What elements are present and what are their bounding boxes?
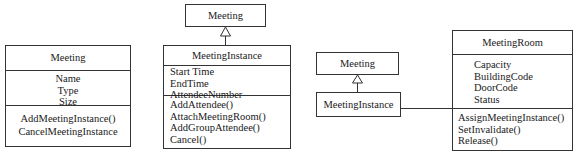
class-meeting-superclass-c: Meeting [316,52,399,75]
attribute: Status [474,94,572,106]
operation: Release() [458,135,572,147]
class-name: MeetingInstance [164,46,290,65]
operations-section: AssignMeetingInstance() SetInvalidate() … [453,108,572,150]
operation: SetInvalidate() [458,124,572,136]
class-name: MeetingRoom [453,31,572,54]
operation: AddGroupAttendee() [170,122,290,134]
attribute: EndTime [170,78,290,90]
class-name: MeetingInstance [317,93,400,111]
attribute: DoorCode [474,82,572,94]
class-meetinginstance-b: MeetingInstance Start Time EndTime Atten… [163,45,291,149]
attribute: BuildingCode [474,71,572,83]
operation: AssignMeetingInstance() [458,112,572,124]
attributes-section: Capacity BuildingCode DoorCode Status [453,54,572,108]
attribute: Capacity [474,59,572,71]
operation: AttachMeetingRoom() [170,111,290,123]
operation: AddAttendee() [170,99,290,111]
class-meetingroom: MeetingRoom Capacity BuildingCode DoorCo… [452,30,573,151]
operations-section: AddAttendee() AttachMeetingRoom() AddGro… [164,95,290,148]
operation: Cancel() [170,134,290,146]
class-name: Meeting [317,53,398,70]
class-meetinginstance-c: MeetingInstance [316,92,401,117]
attributes-section: Start Time EndTime AttendeeNumber [164,65,290,95]
attribute: Start Time [170,66,290,78]
